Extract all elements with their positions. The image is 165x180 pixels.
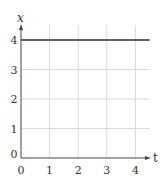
y-tick-label: 4 <box>11 34 18 47</box>
x-tick-label: 2 <box>75 164 82 177</box>
y-tick-labels: 01234 <box>11 34 18 161</box>
x-tick-label: 0 <box>18 164 25 177</box>
x-tick-label: 1 <box>46 164 53 177</box>
y-tick-label: 1 <box>11 123 18 136</box>
grid <box>21 25 150 158</box>
y-axis-label: x <box>17 11 24 25</box>
labels: x t <box>17 11 158 165</box>
x-tick-label: 3 <box>103 164 110 177</box>
y-tick-label: 0 <box>11 148 18 161</box>
x-axis-arrow-icon <box>145 156 151 160</box>
y-tick-label: 3 <box>11 64 18 77</box>
x-tick-label: 4 <box>132 164 139 177</box>
axes <box>19 24 151 160</box>
x-tick-labels: 01234 <box>18 164 139 177</box>
chart: x t 01234 01234 <box>0 0 165 180</box>
x-axis-label: t <box>153 151 158 165</box>
y-tick-label: 2 <box>11 93 18 106</box>
